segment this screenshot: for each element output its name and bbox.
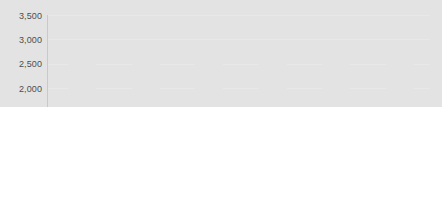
bar-2015	[386, 45, 414, 107]
bar-2007	[259, 45, 287, 107]
y-tick-label-2000: 2,000	[0, 84, 42, 94]
y-tick-label-3500: 3,500	[0, 11, 42, 21]
y-tick-label-2500: 2,500	[0, 59, 42, 69]
bar-2003	[195, 62, 223, 107]
bar-1999	[132, 58, 160, 107]
bar-2011	[322, 45, 350, 107]
y-tick-label-3000: 3,000	[0, 35, 42, 45]
y-axis-labels: 3,500 3,000 2,500 2,000 1,500 1,000 500 …	[0, 0, 42, 107]
bar-chart: 3,500 3,000 2,500 2,000 1,500 1,000 500 …	[0, 0, 442, 107]
bars-layer	[47, 15, 430, 107]
bar-1995	[68, 61, 96, 107]
